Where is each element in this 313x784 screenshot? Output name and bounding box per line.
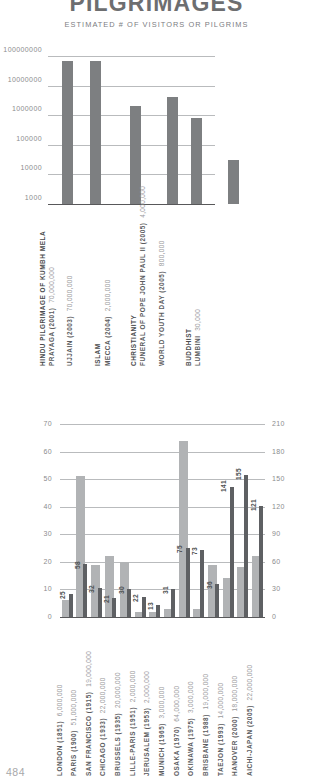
chart2-data-label: 21	[103, 595, 110, 603]
chart2-data-label: 58	[74, 561, 81, 569]
chart1-y-axis: 100010000100000100000010000000100000000	[0, 50, 44, 206]
chart2-data-label: 13	[147, 602, 154, 610]
chart2-category-value: 19,000,000	[202, 673, 209, 709]
chart1-category-label: UJJAIN (2003) 70,000,000	[66, 275, 73, 366]
chart1-category-label: PRAYAGA (2001) 70,000,000	[48, 267, 55, 366]
chart1-value-label: 4,000,000	[139, 186, 146, 218]
chart2-y-tick-label-right: 150	[272, 475, 312, 482]
chart2-y-tick-label-left: 40	[6, 503, 52, 510]
chart2-category-label: PARIS (1900) 51,000,000	[70, 689, 77, 776]
chart2-category-value: 6,000,000	[56, 684, 63, 716]
chart2-category-value: 20,000,000	[114, 672, 121, 708]
chart2-category-name: LONDON (1851)	[56, 721, 63, 776]
chart2-category-label: BRISBANE (1988) 19,000,000	[202, 673, 209, 776]
chart2-category-name: JERUSALEM (1953)	[143, 708, 150, 776]
chart2-category-name: OSAKA (1970)	[173, 726, 180, 776]
chart1-plot-area	[48, 56, 215, 204]
chart2-y-axis-right: 0306090120150180210	[272, 410, 312, 623]
chart2-y-tick-label-right: 210	[272, 420, 312, 427]
chart2-y-tick-label-left: 0	[6, 613, 52, 620]
chart2-y-tick-label-left: 30	[6, 530, 52, 537]
chart2-y-tick-label-left: 60	[6, 448, 52, 455]
chart1-bar	[62, 61, 73, 204]
chart2-y-tick-label-left: 20	[6, 558, 52, 565]
chart1-category-name: FUNERAL OF POPE JOHN PAUL II (2005)	[139, 222, 146, 366]
chart2-category-name: BRUSSELS (1935)	[114, 713, 121, 776]
chart1-category-name: WORLD YOUTH DAY (2005)	[158, 271, 165, 366]
chart2-data-label: 141	[220, 481, 227, 493]
chart2-category-name: OKINAWA (1975)	[187, 718, 194, 776]
chart2-y-tick-label-left: 10	[6, 585, 52, 592]
chart1-bar	[167, 97, 178, 204]
chart2-y-tick-label-right: 30	[272, 585, 312, 592]
chart1-gridline	[48, 86, 215, 87]
chart2-category-value: 18,000,000	[231, 675, 238, 711]
infographic-page: PILGRIMAGES ESTIMATED # OF VISITORS OR P…	[0, 0, 313, 784]
chart2-category-labels: LONDON (1851) 6,000,000PARIS (1900) 51,0…	[0, 620, 313, 780]
chart2-category-name: HANOVER (2000)	[231, 716, 238, 776]
chart1-value-label: 2,000,000	[104, 279, 111, 311]
chart2-gridline	[60, 562, 265, 563]
chart2-category-name: CHICAGO (1933)	[99, 718, 106, 776]
chart2-y-tick-label-right: 120	[272, 503, 312, 510]
chart1-category-label: WORLD YOUTH DAY (2005) 800,000	[158, 240, 165, 366]
chart2-data-label: 32	[88, 585, 95, 593]
chart1-group-label: HINDU PILGRIMAGE OF KUMBH MELA	[39, 231, 46, 366]
page-subtitle: ESTIMATED # OF VISITORS OR PILGRIMS	[0, 20, 313, 29]
chart2-category-name: MUNICH (1965)	[158, 723, 165, 776]
chart2-category-label: MUNICH (1965) 3,000,000	[158, 686, 165, 776]
chart2-y-axis-left: 010203040506070	[8, 418, 54, 623]
chart1-y-tick-label: 100000000	[0, 46, 42, 53]
chart1-value-label: 800,000	[158, 240, 165, 266]
chart2-category-value: 2,000,000	[143, 671, 150, 703]
chart1-category-name: PRAYAGA (2001)	[48, 308, 55, 367]
chart1-value-label: 30,000	[194, 309, 201, 331]
chart1-y-tick-label: 100000	[0, 135, 42, 142]
chart2-category-value: 51,000,000	[70, 689, 77, 725]
chart2-category-value: 64,000,000	[173, 686, 180, 722]
chart2-gridline	[60, 507, 265, 508]
chart2-bar-duration	[259, 506, 263, 617]
chart2-data-label: 75	[176, 545, 183, 553]
chart1-category-name: LUMBINI	[194, 336, 201, 366]
chart2-gridline	[60, 424, 265, 425]
page-title: PILGRIMAGES	[0, 0, 313, 17]
chart2-category-label: OSAKA (1970) 64,000,000	[173, 686, 180, 776]
chart2-y-tick-label-right: 90	[272, 530, 312, 537]
chart1-category-name: MECCA (2004)	[104, 316, 111, 366]
chart2-category-name: SAN FRANCISCO (1915)	[85, 691, 92, 776]
chart2-bar-duration	[112, 598, 116, 617]
chart1-category-label: LUMBINI 30,000	[194, 309, 201, 366]
chart2-category-label: OKINAWA (1975) 3,000,000	[187, 681, 194, 776]
chart2-bar-duration	[230, 487, 234, 617]
chart2-category-value: 14,000,000	[217, 683, 224, 719]
chart1-category-label: FUNERAL OF POPE JOHN PAUL II (2005) 4,00…	[139, 186, 146, 366]
chart2-data-label: 31	[162, 586, 169, 594]
chart1-bar	[228, 160, 239, 204]
chart2-category-label: AICHI-JAPAN (2005) 22,000,000	[246, 664, 253, 776]
chart1-value-label: 70,000,000	[66, 275, 73, 311]
chart2-category-label: TAEJON (1993) 14,000,000	[217, 683, 224, 777]
chart2-category-label: LILLE-PARIS (1951) 2,000,000	[129, 670, 136, 776]
chart2-bar-duration	[186, 548, 190, 617]
chart2-category-label: HANOVER (2000) 18,000,000	[231, 675, 238, 776]
page-number: 484	[6, 766, 25, 778]
chart2-bar-duration	[83, 564, 87, 617]
chart2-category-label: BRUSSELS (1935) 20,000,000	[114, 672, 121, 776]
chart2-data-label: 36	[206, 581, 213, 589]
chart1-y-tick-label: 10000	[0, 164, 42, 171]
chart2-bar-duration	[244, 475, 248, 617]
chart2-category-name: LILLE-PARIS (1951)	[129, 707, 136, 776]
chart2-bar-duration	[200, 550, 204, 617]
chart2-category-value: 19,000,000	[85, 651, 92, 687]
chart2-bar-duration	[171, 589, 175, 617]
chart1-category-label: MECCA (2004) 2,000,000	[104, 279, 111, 366]
chart2-bar-duration	[127, 589, 131, 617]
chart1-y-tick-label: 10000000	[0, 76, 42, 83]
chart2-bar-duration	[142, 597, 146, 617]
chart2-data-label: 155	[235, 468, 242, 480]
chart1-bar	[90, 61, 101, 204]
chart1-gridline	[48, 56, 215, 57]
chart1-category-labels: PRAYAGA (2001) 70,000,000UJJAIN (2003) 7…	[0, 206, 313, 366]
chart1-group-label: CHRISTIANITY	[130, 315, 137, 366]
